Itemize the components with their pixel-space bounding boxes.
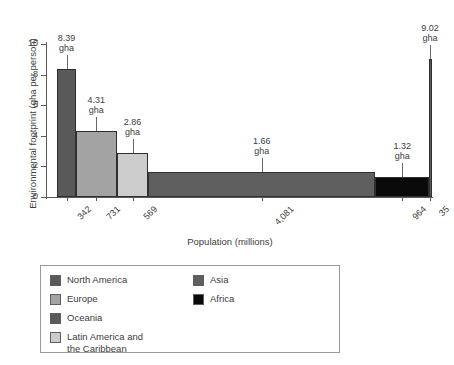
legend-swatch-icon: [50, 332, 61, 343]
callout-leader-line: [430, 45, 431, 59]
x-tick-label: 4,081: [272, 204, 295, 227]
value-callout: 8.39gha: [41, 33, 93, 53]
legend-swatch-icon: [50, 275, 61, 286]
bar-oceania[interactable]: [429, 59, 432, 197]
legend-label: Europe: [67, 293, 98, 305]
y-axis-title: Environmental footprint (gha per person): [27, 34, 38, 214]
value-callout: 1.32gha: [376, 141, 428, 161]
value-callout: 2.86gha: [107, 117, 159, 137]
callout-leader-line: [402, 163, 403, 177]
y-tick-label: 6: [33, 100, 38, 109]
callout-leader-line: [133, 139, 134, 153]
callout-unit: gha: [125, 127, 140, 137]
y-tick-mark: [41, 166, 47, 167]
x-axis-title: Population (millions): [140, 236, 320, 247]
y-axis-line: [46, 42, 47, 199]
value-callout: 1.66gha: [236, 136, 288, 156]
x-tick-mark: [430, 197, 431, 201]
x-tick-mark: [402, 197, 403, 201]
legend-item[interactable]: Latin America andthe Caribbean: [50, 331, 143, 354]
callout-leader-line: [262, 158, 263, 172]
x-tick-label: 35: [437, 204, 451, 218]
legend-label: Africa: [210, 293, 234, 305]
bar-north-america[interactable]: [57, 69, 76, 197]
x-tick-label: 342: [75, 204, 93, 222]
legend-label: North America: [67, 274, 127, 286]
legend-column-left: North AmericaEuropeOceaniaLatin America …: [50, 274, 143, 361]
legend-column-right: AsiaAfrica: [193, 274, 234, 312]
legend-swatch-icon: [50, 294, 61, 305]
callout-value: 1.32: [393, 141, 411, 151]
y-tick-mark: [41, 75, 47, 76]
legend-swatch-icon: [50, 313, 61, 324]
y-tick-mark: [41, 136, 47, 137]
y-tick-mark: [41, 197, 47, 198]
callout-leader-line: [67, 55, 68, 69]
callout-value: 2.86: [124, 117, 142, 127]
x-tick-label: 964: [411, 204, 429, 222]
legend-label: Latin America andthe Caribbean: [67, 331, 143, 354]
callout-unit: gha: [59, 43, 74, 53]
bar-europe[interactable]: [76, 131, 117, 197]
callout-value: 9.02: [421, 23, 439, 33]
legend-swatch-icon: [193, 294, 204, 305]
x-axis-line: [46, 197, 433, 198]
y-tick-mark: [41, 105, 47, 106]
x-tick-mark: [67, 197, 68, 201]
y-tick-label: 2: [33, 161, 38, 170]
x-tick-mark: [262, 197, 263, 201]
callout-leader-line: [96, 117, 97, 131]
y-tick-label: 10: [28, 39, 38, 48]
bar-latin-america-and-the-caribbean[interactable]: [117, 153, 149, 197]
callout-unit: gha: [89, 105, 104, 115]
bar-asia[interactable]: [148, 172, 375, 197]
callout-unit: gha: [254, 146, 269, 156]
legend: North AmericaEuropeOceaniaLatin America …: [40, 265, 340, 353]
legend-item[interactable]: North America: [50, 274, 143, 286]
callout-unit: gha: [395, 151, 410, 161]
y-tick-label: 8: [33, 70, 38, 79]
value-callout: 4.31gha: [70, 95, 122, 115]
x-tick-label: 569: [141, 204, 159, 222]
y-tick-label: 4: [33, 131, 38, 140]
x-tick-mark: [133, 197, 134, 201]
value-callout: 9.02gha: [404, 23, 454, 43]
x-tick-label: 731: [105, 204, 123, 222]
x-tick-mark: [96, 197, 97, 201]
legend-item[interactable]: Europe: [50, 293, 143, 305]
callout-value: 8.39: [58, 33, 76, 43]
legend-item[interactable]: Oceania: [50, 312, 143, 324]
legend-label: Oceania: [67, 312, 102, 324]
y-tick-label: 0: [33, 192, 38, 201]
bar-africa[interactable]: [375, 177, 429, 197]
legend-swatch-icon: [193, 275, 204, 286]
legend-item[interactable]: Africa: [193, 293, 234, 305]
legend-label: Asia: [210, 274, 228, 286]
callout-value: 4.31: [88, 95, 106, 105]
callout-unit: gha: [423, 33, 438, 43]
callout-value: 1.66: [253, 136, 271, 146]
legend-item[interactable]: Asia: [193, 274, 234, 286]
